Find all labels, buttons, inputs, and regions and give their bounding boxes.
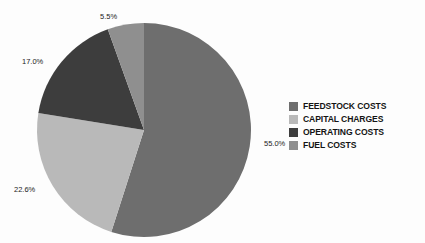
legend-label: FUEL COSTS <box>303 139 356 152</box>
legend-swatch-icon <box>289 141 298 150</box>
legend-item-capital-charges[interactable]: CAPITAL CHARGES <box>289 113 421 126</box>
legend-item-fuel-costs[interactable]: FUEL COSTS <box>289 139 421 152</box>
legend-swatch-icon <box>289 115 298 124</box>
legend-swatch-icon <box>289 128 298 137</box>
legend-swatch-icon <box>289 102 298 111</box>
chart-legend: FEEDSTOCK COSTS CAPITAL CHARGES OPERATIN… <box>289 100 421 152</box>
pie-slices <box>37 23 251 237</box>
value-label-feedstock-costs: 55.0% <box>264 139 286 148</box>
legend-label: OPERATING COSTS <box>303 126 384 139</box>
pie-chart-figure: 55.0% 22.6% 17.0% 5.5% FEEDSTOCK COSTS C… <box>0 0 425 243</box>
legend-item-operating-costs[interactable]: OPERATING COSTS <box>289 126 421 139</box>
value-label-operating-costs: 17.0% <box>22 57 44 66</box>
value-label-fuel-costs: 5.5% <box>100 12 117 21</box>
legend-label: FEEDSTOCK COSTS <box>303 100 386 113</box>
legend-item-feedstock-costs[interactable]: FEEDSTOCK COSTS <box>289 100 421 113</box>
legend-label: CAPITAL CHARGES <box>303 113 383 126</box>
value-label-capital-charges: 22.6% <box>14 185 36 194</box>
